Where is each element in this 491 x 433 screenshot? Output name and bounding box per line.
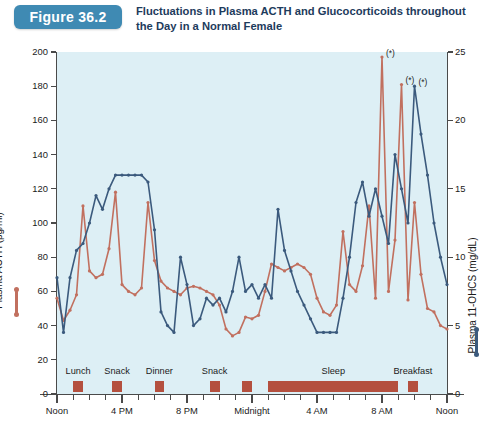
series-point — [172, 331, 175, 334]
series-point — [250, 317, 253, 320]
series-point — [426, 174, 429, 177]
event-bar — [242, 381, 252, 392]
series-point — [283, 269, 286, 272]
series-point — [283, 249, 286, 252]
event-bar — [112, 381, 122, 392]
series-point — [205, 297, 208, 300]
series-point — [114, 191, 117, 194]
series-point — [140, 286, 143, 289]
event-bar — [210, 381, 220, 392]
series-point — [166, 324, 169, 327]
series-point — [387, 290, 390, 293]
series-point — [406, 298, 409, 301]
series-point — [55, 276, 58, 279]
series-point — [75, 293, 78, 296]
series-point — [205, 290, 208, 293]
series-point — [315, 331, 318, 334]
series-point — [55, 297, 58, 300]
series-point — [270, 297, 273, 300]
series-point — [244, 316, 247, 319]
series-point — [94, 194, 97, 197]
asterisk-annotation: (*) — [406, 75, 415, 85]
series-point — [88, 221, 91, 224]
series-point — [107, 247, 110, 250]
series-point — [94, 276, 97, 279]
series-point — [101, 273, 104, 276]
series-point — [159, 280, 162, 283]
series-point — [198, 286, 201, 289]
event-bar — [408, 381, 418, 392]
series-point — [315, 297, 318, 300]
series-point — [341, 230, 344, 233]
series-point — [387, 242, 390, 245]
series-point — [81, 204, 84, 207]
series-point — [380, 215, 383, 218]
series-point — [81, 242, 84, 245]
series-point — [237, 331, 240, 334]
series-point — [192, 324, 195, 327]
series-point — [237, 256, 240, 259]
series-point — [341, 297, 344, 300]
series-point — [153, 228, 156, 231]
series-point — [354, 201, 357, 204]
event-bar — [155, 381, 165, 392]
series-point — [62, 331, 65, 334]
series-point — [127, 174, 130, 177]
series-point — [328, 314, 331, 317]
series-point — [309, 317, 312, 320]
series-point — [322, 310, 325, 313]
series-point — [120, 174, 123, 177]
series-point — [224, 310, 227, 313]
series-point — [439, 256, 442, 259]
figure-container: Figure 36.2 Fluctuations in Plasma ACTH … — [0, 0, 491, 433]
series-point — [133, 293, 136, 296]
series-point — [367, 215, 370, 218]
series-point — [426, 307, 429, 310]
series-point — [127, 290, 130, 293]
asterisk-annotation: (*) — [386, 48, 395, 58]
series-point — [68, 276, 71, 279]
event-bar — [268, 381, 398, 392]
series-point — [296, 262, 299, 265]
series-point — [361, 180, 364, 183]
series-point — [179, 293, 182, 296]
series-point — [231, 334, 234, 337]
series-point — [192, 285, 195, 288]
series-point — [75, 249, 78, 252]
series-point — [133, 174, 136, 177]
series-point — [413, 201, 416, 204]
series-point — [276, 266, 279, 269]
series-point — [185, 283, 188, 286]
series-point — [231, 290, 234, 293]
series-point — [257, 314, 260, 317]
series-point — [296, 290, 299, 293]
series-point — [211, 304, 214, 307]
series-point — [400, 83, 403, 86]
series-point — [439, 324, 442, 327]
series-point — [146, 201, 149, 204]
series-point — [250, 283, 253, 286]
event-bar — [73, 381, 83, 392]
series-point — [172, 290, 175, 293]
series-point — [270, 262, 273, 265]
series-point — [400, 187, 403, 190]
series-point — [374, 187, 377, 190]
series-point — [198, 317, 201, 320]
series-point — [432, 310, 435, 313]
series-point — [309, 273, 312, 276]
series-point — [179, 256, 182, 259]
series-point — [348, 283, 351, 286]
series-point — [166, 286, 169, 289]
series-point — [68, 309, 71, 312]
series-point — [361, 264, 364, 267]
series-point — [393, 153, 396, 156]
series-point — [335, 304, 338, 307]
series-point — [107, 187, 110, 190]
series-point — [393, 239, 396, 242]
series-point — [120, 283, 123, 286]
series-point — [159, 310, 162, 313]
series-point — [419, 133, 422, 136]
series-point — [445, 283, 448, 286]
series-point — [244, 290, 247, 293]
series-point — [257, 297, 260, 300]
